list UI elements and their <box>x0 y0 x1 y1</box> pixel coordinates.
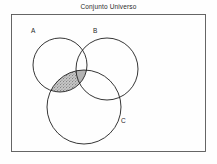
set-label-b: B <box>93 27 97 34</box>
set-label-c: C <box>121 117 126 124</box>
set-label-a: A <box>31 27 36 34</box>
universe-rectangle <box>12 15 206 152</box>
venn-diagram-page: Conjunto Universo <box>0 0 217 164</box>
venn-diagram-canvas: A B C <box>0 0 217 164</box>
